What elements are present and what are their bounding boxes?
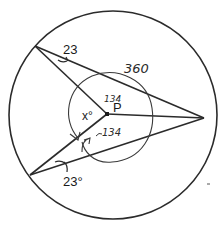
- angle-label-bottom: 23°: [63, 174, 83, 189]
- angle-arc-bottom: [55, 161, 65, 163]
- hand-label-360: 360: [124, 61, 149, 76]
- hand-label-134-lower: 134: [102, 127, 121, 138]
- hand-drawn-arrow-right: [82, 138, 90, 152]
- angle-label-top: 23: [63, 42, 77, 57]
- unknown-angle-label: x°: [82, 109, 93, 123]
- hand-label-134-upper: 134: [104, 94, 121, 104]
- angle-arc-top: [58, 60, 67, 62]
- point-p-marker: [105, 112, 109, 116]
- segment-c-p: [30, 114, 107, 175]
- geometry-diagram: 23 23° P x° 360 134 134: [0, 0, 218, 225]
